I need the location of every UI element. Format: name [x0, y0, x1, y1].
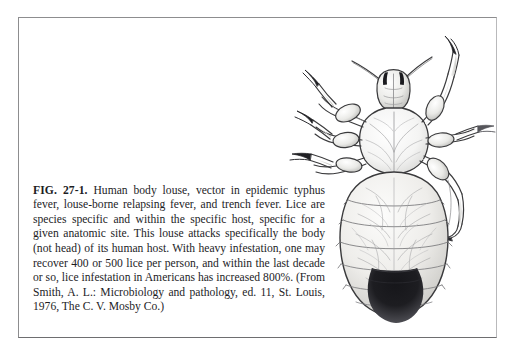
figure-caption-text: Human body louse, vector in epidemic typ…: [33, 184, 325, 314]
louse-thorax: [360, 108, 429, 174]
leg-mid-right: [426, 125, 495, 148]
leg-fore-left: [303, 70, 366, 127]
figure-page: FIG. 27-1. Human body louse, vector in e…: [0, 0, 518, 359]
leg-fore-right: [422, 36, 459, 125]
louse-head: [377, 70, 410, 111]
leg-hind-left: [290, 153, 366, 174]
abdomen-dark-tip: [368, 268, 424, 323]
antenna-left: [352, 61, 382, 83]
figure-caption: FIG. 27-1. Human body louse, vector in e…: [33, 184, 325, 315]
louse-abdomen: [336, 172, 452, 323]
figure-number-label: FIG. 27-1.: [33, 184, 88, 197]
